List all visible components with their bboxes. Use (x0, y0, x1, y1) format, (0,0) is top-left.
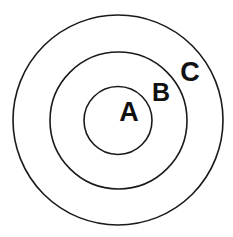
circle-a-inner (84, 87, 152, 155)
label-c: C (180, 57, 200, 87)
concentric-circles-diagram: A B C (0, 0, 233, 237)
circle-c-outer (13, 15, 223, 225)
label-b: B (152, 78, 170, 106)
label-a: A (119, 97, 139, 127)
